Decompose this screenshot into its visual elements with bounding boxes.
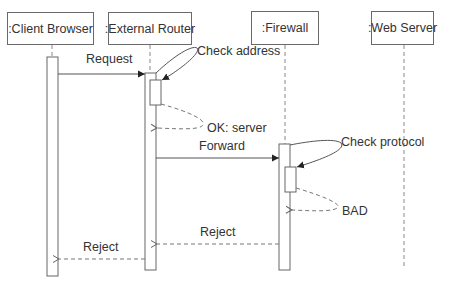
message-label-reject-router: Reject: [83, 241, 118, 254]
message-label-check-address: Check address: [197, 45, 280, 58]
message-label-bad: BAD: [342, 205, 368, 218]
lifeline-header-webserver: :Web Server: [371, 11, 434, 45]
lifeline-label: :Firewall: [262, 21, 309, 35]
message-label-ok-server: OK: server: [207, 122, 267, 135]
lifeline-header-client: :Client Browser: [7, 12, 94, 45]
lifeline-header-firewall: :Firewall: [251, 11, 319, 45]
message-label-check-protocol: Check protocol: [341, 136, 424, 149]
lifeline-label: :Client Browser: [8, 22, 93, 36]
message-check-address-arrow: [156, 47, 198, 80]
activation-firewall-self: [285, 167, 296, 192]
message-ok-server-arrow: [157, 104, 203, 129]
message-check-protocol-arrow: [290, 140, 342, 167]
message-label-forward: Forward: [199, 140, 245, 153]
activation-router-self: [150, 80, 161, 105]
message-label-reject-firewall: Reject: [200, 226, 235, 239]
message-label-request: Request: [86, 53, 133, 66]
lifeline-label: :External Router: [105, 22, 195, 36]
activation-client: [47, 57, 58, 276]
message-bad-arrow: [292, 188, 338, 211]
activation-firewall: [279, 144, 290, 270]
lifeline-label: :Web Server: [368, 21, 437, 35]
lifeline-header-router: :External Router: [108, 12, 192, 45]
